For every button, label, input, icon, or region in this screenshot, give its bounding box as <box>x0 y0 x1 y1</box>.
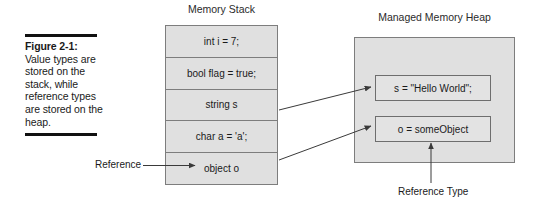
stack-cell: char a = 'a'; <box>166 121 277 153</box>
caption-label: Figure 2-1: <box>25 40 103 53</box>
stack-cell: string s <box>166 90 277 122</box>
memory-stack-box: int i = 7; bool flag = true; string s ch… <box>165 25 278 185</box>
caption-body: Value types are stored on the stack, whi… <box>25 53 103 129</box>
memory-stack-title: Memory Stack <box>165 3 278 15</box>
figure-diagram: Figure 2-1: Value types are stored on th… <box>0 0 538 207</box>
stack-cell: int i = 7; <box>166 26 277 58</box>
stack-cell: bool flag = true; <box>166 58 277 90</box>
reference-annotation-label: Reference <box>95 159 141 170</box>
heap-cell: s = "Hello World"; <box>375 75 491 101</box>
figure-caption: Figure 2-1: Value types are stored on th… <box>25 34 103 136</box>
managed-heap-title: Managed Memory Heap <box>354 11 515 23</box>
heap-cell: o = someObject <box>375 116 491 142</box>
stack-cell: object o <box>166 153 277 184</box>
managed-heap-box: s = "Hello World"; o = someObject <box>354 37 515 163</box>
caption-bottom-rule <box>25 133 97 136</box>
caption-text: Figure 2-1: Value types are stored on th… <box>25 37 103 130</box>
reference-type-annotation-label: Reference Type <box>398 186 468 197</box>
